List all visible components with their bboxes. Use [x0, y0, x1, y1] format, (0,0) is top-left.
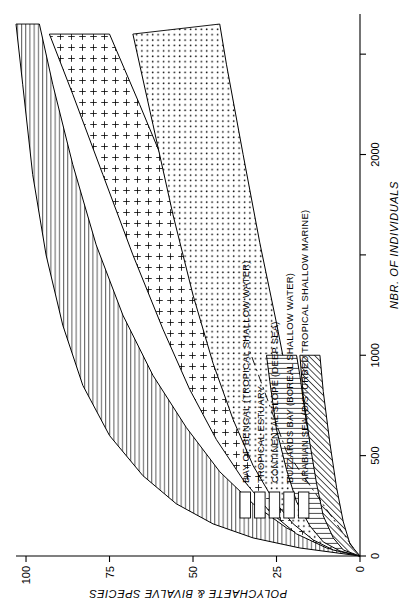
figure-stage: 0500100020000255075100 BAY OF BENGAL (TR…: [0, 0, 420, 614]
chart-canvas: 0500100020000255075100 BAY OF BENGAL (TR…: [0, 0, 420, 614]
legend-item[interactable]: BAY OF BENGAL (TROPICAL SHALLOW WATER): [240, 260, 251, 518]
legend-item[interactable]: TROPICAL ESTUARY: [255, 385, 266, 518]
legend-label: CONTINENTAL SLOPE (DEEP SEA): [269, 321, 280, 483]
y-tick-label: 100: [20, 566, 32, 584]
legend-label: ARABIAN SEA (DISTURBED TROPICAL SHALLOW …: [299, 210, 310, 483]
legend-swatch-vertical-lines: [255, 492, 266, 518]
legend-swatch-dots: [284, 492, 295, 518]
legend-swatch-plus-signs: [269, 492, 280, 518]
y-tick-label: 0: [354, 566, 366, 572]
legend-swatch-diagonal-hatch: [298, 492, 309, 518]
legend-swatch-horizontal-lines: [240, 492, 251, 518]
x-tick-label: 1000: [369, 343, 381, 367]
rarefaction-chart: 0500100020000255075100 BAY OF BENGAL (TR…: [0, 0, 420, 614]
legend-item[interactable]: ARABIAN SEA (DISTURBED TROPICAL SHALLOW …: [298, 210, 309, 518]
x-tick-label: 500: [369, 446, 381, 464]
legend-item[interactable]: BUZZARDS BAY (BOREAL SHALLOW WATER): [284, 273, 295, 518]
y-tick-label: 25: [271, 566, 283, 578]
x-tick-label: 0: [369, 553, 381, 559]
y-axis-title: POLYCHAETE & BIVALVE SPECIES: [89, 588, 288, 600]
x-axis-title: NBR. OF INDIVIDUALS: [388, 181, 400, 309]
y-tick-label: 75: [104, 566, 116, 578]
legend-label: BUZZARDS BAY (BOREAL SHALLOW WATER): [284, 273, 295, 483]
y-tick-label: 50: [187, 566, 199, 578]
legend-label: BAY OF BENGAL (TROPICAL SHALLOW WATER): [240, 260, 251, 483]
legend-label: TROPICAL ESTUARY: [255, 385, 266, 483]
x-tick-label: 2000: [369, 142, 381, 166]
